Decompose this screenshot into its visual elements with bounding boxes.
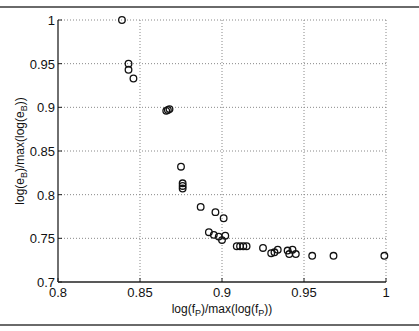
data-point [260, 245, 267, 252]
x-ticks: 0.80.850.90.951 [49, 278, 390, 300]
x-tick-label: 0.95 [291, 285, 316, 300]
y-tick-label: 0.9 [37, 100, 55, 115]
data-point [330, 253, 337, 260]
x-axis-label: log(fP)/max(log(fP)) [172, 302, 273, 318]
data-point [212, 209, 219, 216]
grid-lines [58, 20, 386, 282]
y-tick-label: 0.95 [30, 57, 55, 72]
y-ticks: 0.70.750.80.850.90.951 [30, 13, 62, 290]
scatter-chart: 0.80.850.90.951 0.70.750.80.850.90.951 l… [0, 0, 419, 331]
y-tick-label: 0.8 [37, 188, 55, 203]
data-points [119, 17, 388, 259]
y-tick-label: 0.7 [37, 275, 55, 290]
data-point [178, 163, 185, 170]
data-point [197, 204, 204, 211]
data-point [220, 215, 227, 222]
y-tick-label: 0.85 [30, 144, 55, 159]
data-point [381, 253, 388, 260]
data-point [130, 75, 137, 82]
data-point [309, 253, 316, 260]
x-tick-label: 0.85 [127, 285, 152, 300]
y-tick-label: 0.75 [30, 231, 55, 246]
y-axis-label: log(eB)/max(log(eB)) [13, 97, 29, 204]
y-tick-label: 1 [48, 13, 55, 28]
x-tick-label: 1 [382, 285, 389, 300]
x-tick-label: 0.9 [213, 285, 231, 300]
